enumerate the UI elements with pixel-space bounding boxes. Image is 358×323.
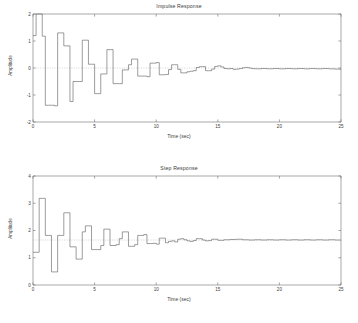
impulse-y-axis-label: Amplitude (8, 46, 13, 86)
matlab-figure-canvas: Impulse Response 0510152025-2-1012 Time … (0, 0, 358, 323)
step-y-axis-label: Amplitude (8, 209, 13, 249)
svg-text:2: 2 (28, 228, 31, 233)
svg-text:25: 25 (338, 287, 344, 292)
svg-text:0: 0 (28, 66, 31, 71)
svg-text:20: 20 (277, 287, 283, 292)
svg-text:1: 1 (28, 39, 31, 44)
step-x-axis-label: Time (sec) (0, 296, 358, 302)
svg-text:0: 0 (28, 283, 31, 288)
svg-text:10: 10 (154, 287, 160, 292)
svg-text:3: 3 (28, 201, 31, 206)
svg-text:-1: -1 (27, 93, 32, 98)
svg-text:5: 5 (93, 287, 96, 292)
svg-text:0: 0 (32, 287, 35, 292)
svg-text:-2: -2 (27, 120, 32, 125)
svg-text:5: 5 (93, 124, 96, 129)
impulse-x-axis-label: Time (sec) (0, 133, 358, 139)
svg-text:2: 2 (28, 12, 31, 17)
step-response-panel: Step Response 051015202501234 Time (sec)… (0, 160, 358, 323)
svg-text:0: 0 (32, 124, 35, 129)
svg-text:20: 20 (277, 124, 283, 129)
svg-text:4: 4 (28, 174, 31, 179)
svg-text:25: 25 (338, 124, 344, 129)
impulse-response-panel: Impulse Response 0510152025-2-1012 Time … (0, 0, 358, 160)
svg-text:1: 1 (28, 255, 31, 260)
svg-text:15: 15 (215, 287, 221, 292)
svg-text:15: 15 (215, 124, 221, 129)
svg-text:10: 10 (154, 124, 160, 129)
